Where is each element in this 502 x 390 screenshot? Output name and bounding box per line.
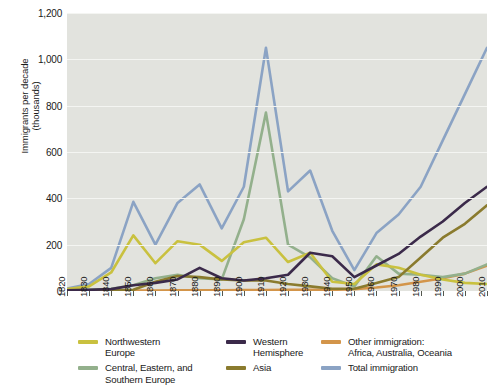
x-tick-label: 1940 <box>321 277 332 297</box>
gridline <box>67 245 487 246</box>
x-tick-mark <box>155 291 156 296</box>
legend-label-northwestern-europe: Northwestern Europe <box>105 336 160 358</box>
legend-swatch-other-immigration <box>321 340 341 344</box>
gridline <box>67 106 487 107</box>
legend-swatch-total-immigration <box>321 366 341 370</box>
x-tick-mark <box>487 291 488 296</box>
legend-item-other-immigration[interactable]: Other immigration: Africa, Australia, Oc… <box>321 336 496 358</box>
legend-column: Western HemisphereAsia <box>226 336 321 378</box>
x-tick-label: 1890 <box>211 277 222 297</box>
gridline <box>67 198 487 199</box>
x-tick-mark <box>89 291 90 296</box>
gridline <box>67 59 487 60</box>
x-tick-label: 1900 <box>233 277 244 297</box>
series-line <box>67 113 487 291</box>
chart-legend: Northwestern EuropeCentral, Eastern, and… <box>0 336 502 390</box>
legend-swatch-western-hemisphere <box>226 340 246 344</box>
legend-item-northwestern-europe[interactable]: Northwestern Europe <box>78 336 223 358</box>
x-tick-mark <box>133 291 134 296</box>
x-tick-label: 1960 <box>365 277 376 297</box>
legend-item-central-eastern-southern-europe[interactable]: Central, Eastern, and Southern Europe <box>78 362 223 384</box>
gridline <box>67 13 487 14</box>
x-tick-mark <box>465 291 466 296</box>
legend-item-western-hemisphere[interactable]: Western Hemisphere <box>226 336 321 358</box>
x-axis-ticks: 1820183018401850186018701880189019001910… <box>67 291 487 336</box>
x-tick-mark <box>111 291 112 296</box>
y-tick-label: 600 <box>26 147 62 158</box>
x-tick-label: 2010 <box>476 277 487 297</box>
x-tick-label: 1820 <box>56 277 67 297</box>
y-tick-label: 1,000 <box>26 54 62 65</box>
x-tick-label: 1830 <box>78 277 89 297</box>
immigration-line-chart: Immigrants per decade(thousands) 0200400… <box>0 0 502 390</box>
y-tick-label: 800 <box>26 100 62 111</box>
y-axis-ticks: 02004006008001,0001,200 <box>24 0 62 300</box>
x-tick-label: 1870 <box>167 277 178 297</box>
gridline <box>67 152 487 153</box>
x-tick-label: 1970 <box>388 277 399 297</box>
x-tick-mark <box>376 291 377 296</box>
legend-label-total-immigration: Total immigration <box>348 362 418 373</box>
x-tick-mark <box>332 291 333 296</box>
x-tick-mark <box>288 291 289 296</box>
legend-column: Northwestern EuropeCentral, Eastern, and… <box>78 336 223 389</box>
x-tick-label: 1850 <box>122 277 133 297</box>
x-tick-label: 1920 <box>277 277 288 297</box>
legend-label-asia: Asia <box>253 362 271 373</box>
y-tick-label: 200 <box>26 239 62 250</box>
legend-swatch-central-eastern-southern-europe <box>78 366 98 370</box>
legend-label-other-immigration: Other immigration: Africa, Australia, Oc… <box>348 336 452 358</box>
x-tick-label: 1860 <box>144 277 155 297</box>
x-tick-label: 1980 <box>410 277 421 297</box>
plot-area <box>67 13 487 291</box>
legend-item-asia[interactable]: Asia <box>226 362 321 373</box>
y-tick-label: 1,200 <box>26 8 62 19</box>
y-tick-label: 400 <box>26 193 62 204</box>
x-tick-mark <box>354 291 355 296</box>
x-tick-label: 1880 <box>189 277 200 297</box>
x-tick-mark <box>67 291 68 296</box>
x-tick-label: 1950 <box>343 277 354 297</box>
legend-swatch-asia <box>226 366 246 370</box>
x-tick-label: 1910 <box>255 277 266 297</box>
legend-label-central-eastern-southern-europe: Central, Eastern, and Southern Europe <box>105 362 193 384</box>
legend-swatch-northwestern-europe <box>78 340 98 344</box>
x-tick-mark <box>266 291 267 296</box>
x-tick-label: 2000 <box>454 277 465 297</box>
x-tick-label: 1990 <box>432 277 443 297</box>
x-tick-label: 1840 <box>100 277 111 297</box>
series-line <box>67 48 487 289</box>
legend-label-western-hemisphere: Western Hemisphere <box>253 336 303 358</box>
legend-item-total-immigration[interactable]: Total immigration <box>321 362 496 373</box>
x-tick-label: 1930 <box>299 277 310 297</box>
x-tick-mark <box>310 291 311 296</box>
legend-column: Other immigration: Africa, Australia, Oc… <box>321 336 496 378</box>
